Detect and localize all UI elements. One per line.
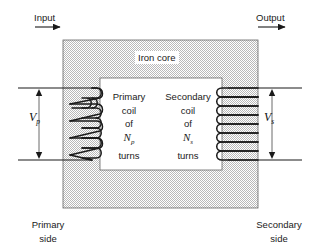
secondary-coil-line-1: Secondary (160, 90, 216, 104)
secondary-voltage-subscript: s (271, 117, 274, 126)
secondary-side-line-1: Secondary (246, 218, 312, 232)
primary-coil-line-2: coil (105, 104, 153, 118)
iron-core-label: Iron core (135, 51, 179, 64)
secondary-side-label: Secondary side (246, 218, 312, 245)
primary-coil-line-5: turns (105, 149, 153, 163)
primary-side-label: Primary side (18, 218, 78, 245)
primary-side-line-2: side (18, 232, 78, 246)
transformer-diagram: Input Output Iron core Vp Vs Primary coi… (0, 0, 320, 251)
secondary-coil-line-2: coil (160, 104, 216, 118)
secondary-voltage-label: Vs (264, 110, 274, 126)
input-label: Input (34, 12, 55, 24)
secondary-coil-line-5: turns (160, 149, 216, 163)
secondary-turns-symbol: Ns (160, 131, 216, 150)
primary-coil-line-1: Primary (105, 90, 153, 104)
primary-voltage-label: Vp (29, 110, 40, 126)
primary-coil-caption: Primary coil of Np turns (105, 90, 153, 163)
primary-side-line-1: Primary (18, 218, 78, 232)
output-label: Output (256, 12, 285, 24)
secondary-coil-caption: Secondary coil of Ns turns (160, 90, 216, 163)
primary-voltage-subscript: p (36, 117, 40, 126)
primary-turns-symbol: Np (105, 131, 153, 150)
secondary-coil-line-3: of (160, 117, 216, 131)
secondary-side-line-2: side (246, 232, 312, 246)
primary-coil-line-3: of (105, 117, 153, 131)
